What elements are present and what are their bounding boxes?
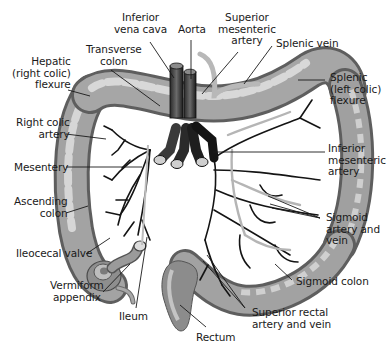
label-vermiform-appendix: Vermiform appendix (50, 280, 104, 303)
label-sigmoid-artery-and-vein: Sigmoid artery and vein (326, 212, 380, 247)
mesentery (142, 145, 148, 245)
label-mesentery: Mesentery (14, 162, 68, 174)
label-splenic-flexure: Splenic (left colic) flexure (330, 72, 381, 107)
label-rectum: Rectum (196, 332, 235, 344)
label-ileum: Ileum (119, 311, 148, 323)
leader-sigmoid-2 (270, 204, 320, 218)
leader-inferior-vena-cava (150, 42, 174, 78)
label-ileocecal-valve: Ileocecal valve (16, 248, 92, 260)
label-inferior-vena-cava: Inferior vena cava (114, 12, 167, 35)
label-superior-mesenteric-artery: Superior mesenteric artery (218, 12, 276, 47)
label-superior-rectal-artery-and-vein: Superior rectal artery and vein (252, 307, 331, 330)
rectum (162, 261, 198, 331)
label-ascending-colon: Ascending colon (14, 196, 68, 219)
label-aorta: Aorta (178, 24, 206, 36)
label-right-colic-artery: Right colic artery (16, 117, 70, 140)
label-sigmoid-colon: Sigmoid colon (296, 276, 369, 288)
label-inferior-mesenteric-artery: Inferior mesenteric artery (328, 143, 386, 178)
label-splenic-vein: Splenic vein (276, 38, 338, 50)
ileum (112, 241, 146, 268)
label-transverse-colon: Transverse colon (86, 44, 142, 67)
label-hepatic-flexure: Hepatic (right colic) flexure (12, 56, 71, 91)
leader-sigmoid-1 (268, 196, 320, 218)
leader-sigmoid-3 (272, 208, 320, 218)
